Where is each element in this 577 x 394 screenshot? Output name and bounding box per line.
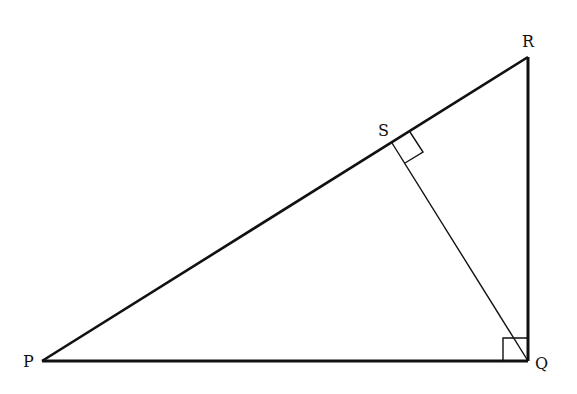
altitude-sq (392, 143, 528, 361)
label-r: R (522, 32, 535, 51)
label-p: P (23, 352, 34, 371)
label-q: Q (535, 354, 548, 373)
right-angle-marker-s (405, 132, 423, 163)
triangle-diagram: P Q R S (0, 0, 577, 394)
side-pr (42, 57, 528, 361)
label-s: S (378, 121, 389, 140)
